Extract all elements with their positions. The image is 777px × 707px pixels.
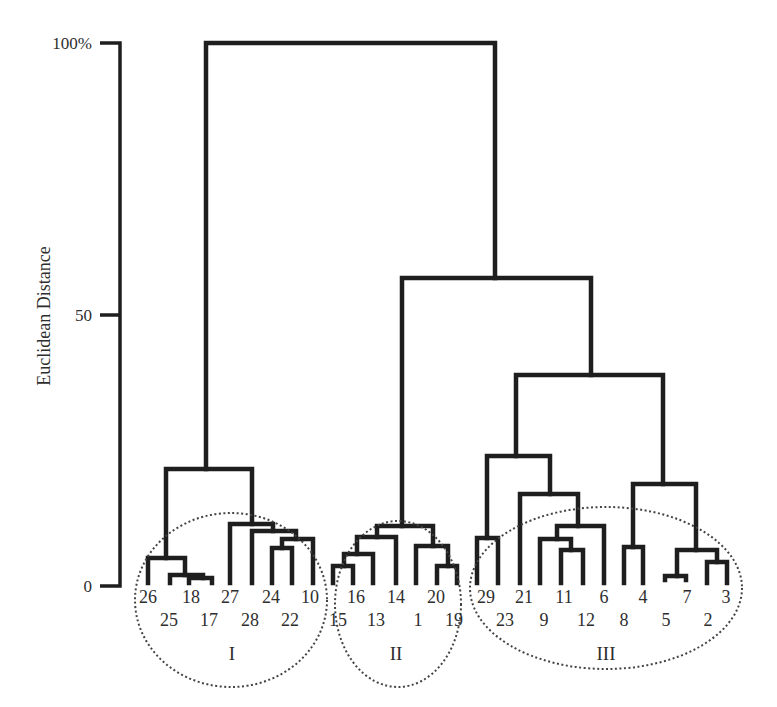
y-axis: 100% 50 0 Euclidean Distance — [34, 34, 120, 596]
leaf-label-3: 3 — [722, 587, 731, 607]
cluster-label-III: III — [597, 643, 616, 664]
leaf-label-28: 28 — [241, 610, 259, 630]
leaf-label-20: 20 — [427, 587, 445, 607]
leaf-label-6: 6 — [600, 587, 609, 607]
leaf-label-1: 1 — [414, 610, 423, 630]
leaf-label-24: 24 — [262, 587, 280, 607]
leaf-label-2: 2 — [704, 610, 713, 630]
leaf-labels-lower: 25172822151311923912852 — [160, 610, 713, 630]
leaf-label-16: 16 — [347, 587, 365, 607]
leaf-label-12: 12 — [577, 610, 595, 630]
leaf-label-11: 11 — [555, 587, 572, 607]
leaf-label-17: 17 — [200, 610, 218, 630]
leaf-label-14: 14 — [387, 587, 405, 607]
leaf-label-8: 8 — [620, 610, 629, 630]
leaf-label-26: 26 — [139, 587, 157, 607]
leaf-label-7: 7 — [683, 587, 692, 607]
cluster-labels: IIIIII — [229, 643, 616, 664]
leaf-label-21: 21 — [515, 587, 533, 607]
leaf-label-19: 19 — [445, 610, 463, 630]
leaf-label-23: 23 — [496, 610, 514, 630]
leaf-label-5: 5 — [662, 610, 671, 630]
leaf-label-15: 15 — [329, 610, 347, 630]
leaf-label-29: 29 — [477, 587, 495, 607]
y-tick-50: 50 — [75, 306, 92, 325]
cluster-label-I: I — [229, 643, 235, 664]
y-axis-label: Euclidean Distance — [34, 246, 54, 385]
dendrogram-chart: 100% 50 0 Euclidean Distance — [0, 0, 777, 707]
leaf-labels-upper: 26182724101614202921116473 — [139, 587, 731, 607]
leaf-label-22: 22 — [281, 610, 299, 630]
y-tick-0: 0 — [84, 577, 93, 596]
dendrogram-links — [148, 43, 727, 583]
leaf-label-18: 18 — [182, 587, 200, 607]
leaf-label-27: 27 — [221, 587, 239, 607]
leaf-label-4: 4 — [639, 587, 648, 607]
y-tick-100: 100% — [52, 34, 92, 53]
cluster-label-II: II — [390, 643, 403, 664]
leaf-label-9: 9 — [540, 610, 549, 630]
leaf-label-13: 13 — [367, 610, 385, 630]
leaf-label-25: 25 — [160, 610, 178, 630]
leaf-label-10: 10 — [301, 587, 319, 607]
